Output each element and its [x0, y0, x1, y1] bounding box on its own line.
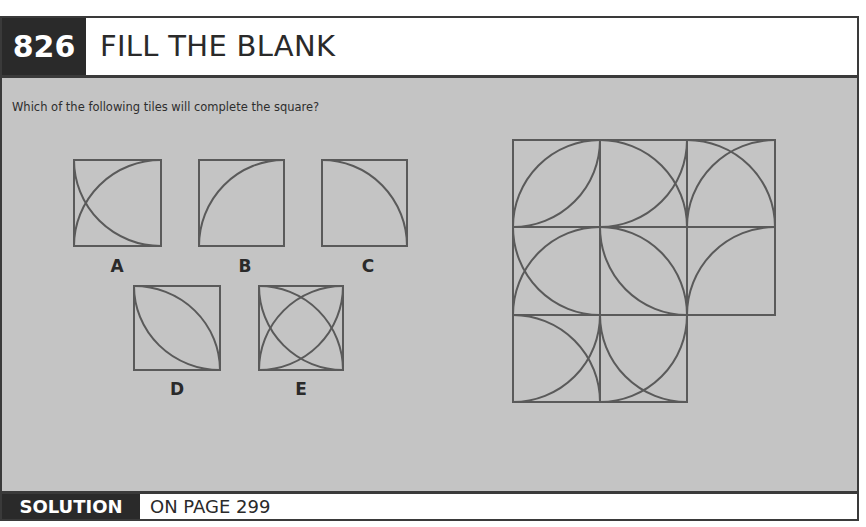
- grid-tile-r1c2: [600, 140, 687, 227]
- option-e-label: E: [286, 379, 316, 399]
- grid-tile-r2c3: [687, 227, 775, 315]
- puzzle-header: 826 FILL THE BLANK: [0, 16, 859, 78]
- option-d-tile[interactable]: [134, 286, 220, 370]
- grid-tile-r1c3: [687, 140, 775, 227]
- option-a-tile[interactable]: [74, 160, 161, 246]
- solution-footer: SOLUTION ON PAGE 299: [0, 491, 859, 521]
- grid-tile-r2c2: [600, 227, 687, 315]
- option-e-tile[interactable]: [259, 286, 343, 370]
- grid-tile-r1c1: [513, 140, 600, 227]
- grid-tile-r2c1: [513, 227, 600, 315]
- option-c-label: C: [353, 256, 383, 276]
- option-b-tile[interactable]: [199, 160, 284, 246]
- grid-tile-r3c2: [600, 315, 687, 402]
- option-b-label: B: [230, 256, 260, 276]
- puzzle-number: 826: [2, 18, 86, 75]
- option-c-tile[interactable]: [322, 160, 407, 246]
- option-d-label: D: [162, 379, 192, 399]
- option-a-label: A: [102, 256, 132, 276]
- question-text: Which of the following tiles will comple…: [12, 100, 319, 114]
- solution-label: SOLUTION: [2, 494, 140, 519]
- puzzle-title: FILL THE BLANK: [100, 18, 335, 75]
- puzzle-grid: [513, 140, 776, 403]
- solution-page-reference: ON PAGE 299: [150, 494, 270, 519]
- grid-tile-r3c1: [513, 315, 600, 402]
